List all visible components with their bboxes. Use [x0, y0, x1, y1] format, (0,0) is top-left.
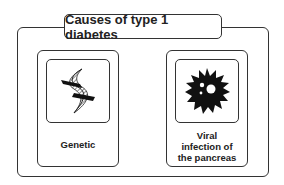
icon-frame [46, 59, 110, 123]
virus-icon [181, 65, 233, 117]
label-line: Viral [167, 130, 247, 141]
cause-card-genetic: Genetic [37, 50, 119, 167]
title-text: Causes of type 1 diabetes [65, 12, 221, 42]
label-line: infection of [167, 141, 247, 152]
cause-label: Viral infection of the pancreas [167, 130, 247, 163]
cause-label: Genetic [38, 139, 118, 150]
label-line: the pancreas [167, 152, 247, 163]
icon-frame [175, 59, 239, 123]
cause-card-viral-infection: Viral infection of the pancreas [166, 50, 248, 167]
dna-helix-icon [52, 65, 104, 117]
diagram-title: Causes of type 1 diabetes [64, 14, 222, 39]
